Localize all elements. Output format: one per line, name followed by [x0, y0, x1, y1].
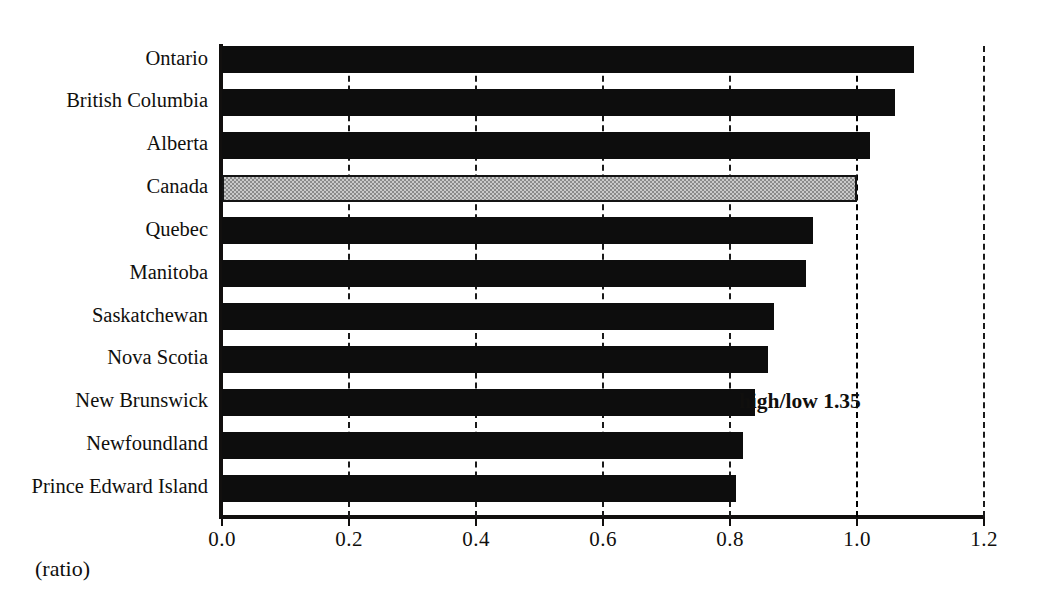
bar-prince-edward-island	[222, 475, 736, 502]
category-label-new-brunswick: New Brunswick	[0, 389, 208, 412]
x-tick-label-1.0: 1.0	[843, 527, 871, 552]
annotation-high-low: high/low 1.35	[739, 389, 861, 414]
x-tick-label-0.4: 0.4	[462, 527, 490, 552]
bar-ontario	[222, 46, 914, 73]
x-tick-0.8	[729, 519, 731, 526]
category-label-alberta: Alberta	[0, 132, 208, 155]
category-label-british-columbia: British Columbia	[0, 89, 208, 112]
category-label-newfoundland: Newfoundland	[0, 432, 208, 455]
category-label-prince-edward-island: Prince Edward Island	[0, 475, 208, 498]
x-tick-0.6	[602, 519, 604, 526]
x-tick-0.2	[348, 519, 350, 526]
bar-new-brunswick	[222, 389, 755, 416]
bar-nova-scotia	[222, 346, 768, 373]
category-label-nova-scotia: Nova Scotia	[0, 346, 208, 369]
x-tick-label-0.0: 0.0	[208, 527, 236, 552]
x-tick-label-1.2: 1.2	[970, 527, 998, 552]
bar-chart: 0.00.20.40.60.81.01.2 OntarioBritish Col…	[0, 0, 1045, 607]
category-label-manitoba: Manitoba	[0, 261, 208, 284]
bar-newfoundland	[222, 432, 743, 459]
gridline-1.0	[856, 46, 858, 517]
bar-british-columbia	[222, 89, 895, 116]
category-label-quebec: Quebec	[0, 218, 208, 241]
bar-saskatchewan	[222, 303, 774, 330]
bar-alberta	[222, 132, 870, 159]
x-tick-1.2	[983, 519, 985, 526]
x-tick-label-0.8: 0.8	[716, 527, 744, 552]
category-label-saskatchewan: Saskatchewan	[0, 304, 208, 327]
bar-quebec	[222, 217, 813, 244]
x-tick-1.0	[856, 519, 858, 526]
category-label-ontario: Ontario	[0, 47, 208, 70]
x-tick-label-0.2: 0.2	[335, 527, 363, 552]
x-axis-title: (ratio)	[0, 556, 1045, 582]
category-label-canada: Canada	[0, 175, 208, 198]
x-tick-label-0.6: 0.6	[589, 527, 617, 552]
bar-canada	[222, 175, 857, 202]
x-axis-title-text: (ratio)	[35, 556, 90, 581]
x-tick-0.4	[475, 519, 477, 526]
bar-manitoba	[222, 260, 806, 287]
x-tick-0.0	[221, 519, 223, 526]
gridline-1.2	[983, 46, 985, 517]
